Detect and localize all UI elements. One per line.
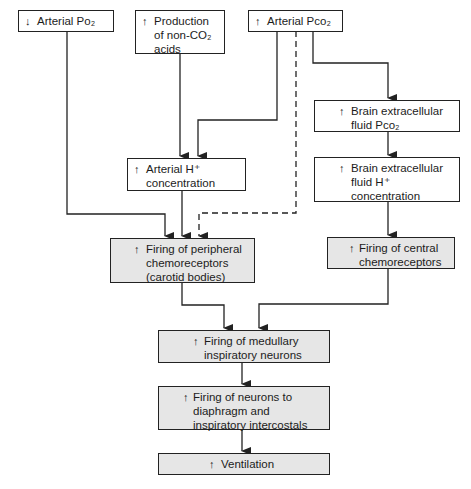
- non-co2-acids-box: ↑ Production of non-CO₂ acids: [135, 10, 225, 54]
- ventilation-box: ↑ Ventilation: [158, 453, 330, 475]
- arterial-h-box: ↑ Arterial H⁺ concentration: [127, 158, 246, 191]
- arterial-pco2-box: ↑ Arterial Pco₂: [248, 10, 343, 32]
- diaphragm-neurons-box: ↑ Firing of neurons to diaphragm and ins…: [158, 386, 330, 430]
- box-label: Ventilation: [221, 457, 323, 471]
- arterial-po2-box: ↓ Arterial Po₂: [18, 10, 114, 32]
- increase-arrow-icon: ↑: [339, 104, 345, 118]
- central-chemoreceptors-box: ↑ Firing of central chemoreceptors: [327, 237, 455, 269]
- box-label: Firing of peripheral chemoreceptors (car…: [146, 242, 248, 284]
- box-label: Arterial H⁺ concentration: [146, 162, 239, 190]
- box-label: Firing of medullary inspiratory neurons: [204, 334, 323, 362]
- brain-pco2-box: ↑ Brain extracellular fluid Pco₂: [314, 100, 460, 132]
- increase-arrow-icon: ↑: [349, 241, 355, 255]
- increase-arrow-icon: ↑: [134, 242, 140, 256]
- box-label: Firing of neurons to diaphragm and inspi…: [193, 390, 323, 432]
- increase-arrow-icon: ↑: [339, 161, 345, 175]
- peripheral-chemoreceptors-box: ↑ Firing of peripheral chemoreceptors (c…: [110, 238, 255, 283]
- increase-arrow-icon: ↑: [193, 334, 199, 348]
- increase-arrow-icon: ↑: [142, 14, 148, 28]
- box-label: Firing of central chemoreceptors: [359, 241, 448, 269]
- brain-h-box: ↑ Brain extracellular fluid H⁺ concentra…: [314, 157, 460, 202]
- box-label: Brain extracellular fluid H⁺ concentrati…: [351, 161, 453, 203]
- box-label: Brain extracellular fluid Pco₂: [351, 104, 453, 132]
- box-label: Production of non-CO₂ acids: [154, 14, 218, 56]
- increase-arrow-icon: ↑: [209, 457, 215, 471]
- box-label: Arterial Po₂: [37, 14, 107, 28]
- box-label: Arterial Pco₂: [267, 14, 336, 28]
- increase-arrow-icon: ↑: [255, 14, 261, 28]
- increase-arrow-icon: ↑: [134, 162, 140, 176]
- medullary-neurons-box: ↑ Firing of medullary inspiratory neuron…: [158, 330, 330, 363]
- increase-arrow-icon: ↑: [183, 390, 189, 404]
- decrease-arrow-icon: ↓: [25, 14, 31, 28]
